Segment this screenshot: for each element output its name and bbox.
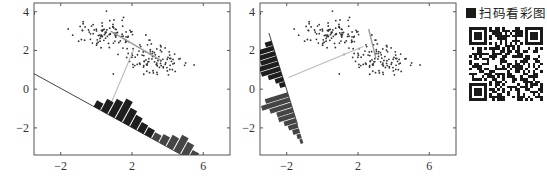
- plot-right-fisher-projection: −226420−2: [242, 3, 456, 173]
- plot-left-projection: −226420−2: [16, 3, 230, 174]
- mean-connector-line: [111, 31, 161, 60]
- mean-connector-line: [369, 29, 376, 58]
- y-tick-label: 2: [23, 43, 29, 57]
- projection-connector-line: [109, 49, 134, 108]
- y-tick-label: 0: [23, 82, 29, 96]
- figure-canvas: −226420−2 −226420−2: [0, 0, 547, 181]
- x-tick-label: 6: [426, 159, 432, 173]
- y-tick-label: −2: [242, 121, 255, 135]
- y-tick-label: 2: [249, 43, 255, 57]
- y-tick-label: 0: [249, 82, 255, 96]
- axes-frame: [34, 3, 230, 155]
- histogram-bar: [299, 139, 303, 144]
- projection-connector-line: [289, 47, 364, 78]
- qr-caption-text: 扫码看彩图: [479, 3, 547, 22]
- histogram-bar: [296, 133, 301, 139]
- axes-frame: [260, 3, 456, 155]
- y-tick-label: 4: [23, 5, 29, 19]
- qr-code-icon[interactable]: [469, 25, 543, 103]
- projection-histogram: [254, 41, 304, 144]
- x-tick-label: −2: [54, 159, 67, 173]
- histogram-bar: [210, 166, 219, 174]
- qr-caption: 扫码看彩图: [466, 3, 547, 22]
- x-tick-label: 2: [129, 159, 135, 173]
- y-tick-label: 4: [249, 5, 255, 19]
- x-tick-label: 6: [200, 159, 206, 173]
- y-tick-label: −2: [16, 121, 29, 135]
- projection-line: [34, 74, 182, 155]
- black-square-icon: [466, 8, 476, 18]
- scatter-class-2: [338, 39, 421, 76]
- x-tick-label: 2: [355, 159, 361, 173]
- x-tick-label: −2: [280, 159, 293, 173]
